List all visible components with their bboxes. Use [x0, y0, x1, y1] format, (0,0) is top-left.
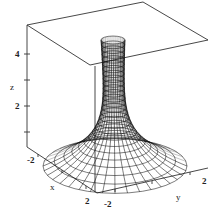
x-tick-neg: -2 — [27, 155, 35, 165]
z-axis-label: z — [10, 82, 14, 92]
surface-mesh — [43, 36, 187, 193]
surface-plot: 4 2 z -2 2 x -2 2 y — [0, 0, 222, 216]
z-tick-2: 2 — [15, 101, 20, 111]
y-axis-label: y — [176, 192, 181, 202]
z-tick-4: 4 — [15, 49, 20, 59]
x-tick-pos: 2 — [85, 196, 90, 206]
y-tick-pos: 2 — [202, 176, 207, 186]
x-axis-label: x — [50, 182, 55, 192]
y-tick-neg: -2 — [104, 199, 112, 209]
